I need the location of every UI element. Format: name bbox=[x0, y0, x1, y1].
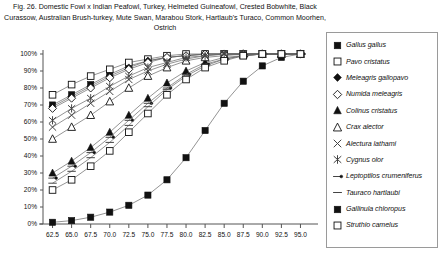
marker-filled-square bbox=[164, 177, 170, 183]
marker-filled-square bbox=[183, 155, 189, 161]
marker-open-triangle bbox=[333, 123, 341, 131]
marker-open-square bbox=[278, 51, 285, 58]
marker-open-square bbox=[87, 163, 94, 170]
y-tick-label: 80% bbox=[24, 84, 37, 91]
x-tick-label: 87.5 bbox=[237, 231, 250, 238]
legend-marker-glyph bbox=[334, 107, 342, 114]
marker-filled-square bbox=[259, 63, 265, 69]
legend-item-label: Numida meleagris bbox=[346, 90, 402, 98]
marker-open-triangle bbox=[49, 135, 57, 143]
legend-item-label: Gallinula chloropus bbox=[346, 205, 405, 213]
marker-open-square bbox=[297, 51, 304, 58]
y-tick-label: 30% bbox=[24, 169, 37, 176]
marker-open-triangle bbox=[87, 111, 95, 119]
marker-open-square bbox=[106, 148, 113, 155]
legend-item-label: Alectura lathami bbox=[346, 140, 396, 148]
legend-marker-filled-diamond-icon bbox=[331, 71, 344, 84]
legend-item-label: Tauraco hartlaubi bbox=[346, 189, 400, 197]
marker-filled-square bbox=[240, 78, 246, 84]
marker-open-square bbox=[334, 58, 341, 65]
marker-open-square bbox=[68, 81, 75, 88]
marker-filled-square bbox=[221, 100, 227, 106]
marker-open-square bbox=[126, 129, 133, 136]
marker-open-diamond bbox=[333, 90, 341, 98]
legend-item[interactable]: Tauraco hartlaubi bbox=[331, 185, 434, 201]
marker-filled-triangle bbox=[106, 128, 113, 135]
legend-marker-dash-icon bbox=[331, 186, 344, 199]
legend-marker-filled-square-icon bbox=[331, 203, 344, 216]
y-tick-label: 0% bbox=[27, 220, 37, 227]
marker-filled-square bbox=[145, 192, 151, 198]
marker-filled-square bbox=[334, 42, 341, 49]
marker-dash-dot bbox=[74, 165, 77, 168]
legend-item-label: Crax alector bbox=[346, 123, 384, 131]
legend-marker-open-triangle-icon bbox=[331, 121, 344, 134]
legend-marker-open-square-icon bbox=[331, 219, 344, 232]
x-tick-label: 85.0 bbox=[218, 231, 231, 238]
legend-marker-glyph bbox=[334, 222, 341, 229]
series-12 bbox=[49, 51, 304, 194]
marker-open-square bbox=[145, 110, 152, 117]
legend-item[interactable]: Crax alector bbox=[331, 119, 434, 135]
marker-filled-triangle bbox=[49, 169, 56, 176]
legend-item-label: Struthio camelus bbox=[346, 221, 398, 229]
marker-filled-square bbox=[88, 214, 94, 220]
marker-open-triangle bbox=[125, 84, 133, 92]
legend-item[interactable]: Gallus gallus bbox=[331, 37, 434, 53]
legend-marker-glyph bbox=[333, 90, 341, 98]
marker-filled-square bbox=[202, 127, 208, 133]
marker-open-square bbox=[106, 66, 113, 73]
y-tick-label: 90% bbox=[24, 67, 37, 74]
marker-filled-square bbox=[49, 219, 55, 225]
marker-filled-triangle bbox=[68, 157, 75, 164]
marker-open-square bbox=[68, 177, 75, 184]
legend-item[interactable]: Cygnus olor bbox=[331, 152, 434, 168]
x-tick-label: 90.0 bbox=[256, 231, 269, 238]
y-tick-label: 100% bbox=[20, 50, 37, 57]
line-chart: 0%10%20%30%40%50%60%70%80%90%100%62.565.… bbox=[0, 44, 326, 260]
marker-filled-triangle bbox=[125, 111, 132, 118]
legend-item-label: Gallus gallus bbox=[346, 41, 386, 49]
legend-marker-glyph bbox=[333, 175, 343, 178]
x-tick-label: 77.5 bbox=[161, 231, 174, 238]
marker-filled-square bbox=[69, 218, 75, 224]
legend-item[interactable]: Struthio camelus bbox=[331, 217, 434, 233]
legend-item[interactable]: Pavo cristatus bbox=[331, 53, 434, 69]
legend-item-label: Leptoptilos crumeniferus bbox=[346, 172, 422, 180]
marker-open-square bbox=[164, 92, 171, 99]
legend-marker-glyph bbox=[334, 156, 342, 165]
marker-open-square bbox=[259, 51, 266, 58]
legend-item[interactable]: Alectura lathami bbox=[331, 135, 434, 151]
marker-filled-diamond bbox=[334, 74, 342, 82]
x-tick-label: 65.0 bbox=[65, 231, 78, 238]
marker-open-square bbox=[183, 76, 190, 83]
legend-item[interactable]: Numida meleagris bbox=[331, 86, 434, 102]
legend-marker-glyph bbox=[334, 58, 341, 65]
y-tick-label: 20% bbox=[24, 186, 37, 193]
y-tick-label: 60% bbox=[24, 118, 37, 125]
legend-marker-filled-square-icon bbox=[331, 39, 344, 52]
marker-open-square bbox=[87, 73, 94, 80]
legend-marker-asterisk-icon bbox=[331, 153, 344, 166]
x-tick-label: 75.0 bbox=[141, 231, 154, 238]
legend-marker-glyph bbox=[334, 140, 342, 148]
marker-open-square bbox=[202, 64, 209, 71]
legend-item[interactable]: Meleagris gallopavo bbox=[331, 70, 434, 86]
legend-item[interactable]: Colinus cristatus bbox=[331, 103, 434, 119]
legend-marker-open-diamond-icon bbox=[331, 88, 344, 101]
legend-item[interactable]: Leptoptilos crumeniferus bbox=[331, 168, 434, 184]
x-tick-label: 70.0 bbox=[103, 231, 116, 238]
legend-marker-glyph bbox=[334, 74, 342, 82]
marker-filled-triangle bbox=[163, 79, 170, 86]
legend-item-label: Colinus cristatus bbox=[346, 107, 397, 115]
marker-open-square bbox=[221, 58, 228, 65]
marker-open-triangle bbox=[106, 97, 114, 105]
x-tick-label: 80.0 bbox=[180, 231, 193, 238]
legend-item[interactable]: Gallinula chloropus bbox=[331, 201, 434, 217]
chart-legend: Gallus gallusPavo cristatusMeleagris gal… bbox=[326, 32, 438, 248]
y-tick-label: 10% bbox=[24, 203, 37, 210]
legend-marker-glyph bbox=[334, 206, 341, 213]
marker-filled-triangle bbox=[334, 107, 342, 114]
marker-filled-square bbox=[334, 206, 341, 213]
legend-marker-cross-x-icon bbox=[331, 137, 344, 150]
